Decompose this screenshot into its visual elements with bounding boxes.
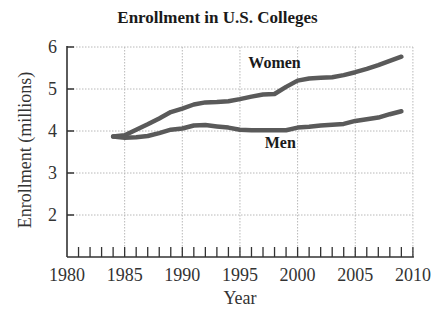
x-tick-label: 1995 — [222, 265, 258, 285]
y-tick-label: 6 — [48, 37, 57, 57]
plot-area: 234561980198519901995200020052010WomenMe… — [0, 0, 435, 315]
y-tick-label: 2 — [48, 205, 57, 225]
x-tick-label: 2010 — [395, 265, 431, 285]
x-tick-label: 2000 — [280, 265, 316, 285]
series-line-men — [113, 111, 401, 137]
y-tick-label: 3 — [48, 163, 57, 183]
y-tick-label: 4 — [48, 121, 57, 141]
x-tick-label: 1990 — [164, 265, 200, 285]
series-label-men: Men — [265, 134, 296, 151]
y-tick-label: 5 — [48, 79, 57, 99]
x-tick-label: 2005 — [337, 265, 373, 285]
x-tick-label: 1980 — [49, 265, 85, 285]
x-tick-label: 1985 — [107, 265, 143, 285]
series-label-women: Women — [248, 54, 301, 71]
